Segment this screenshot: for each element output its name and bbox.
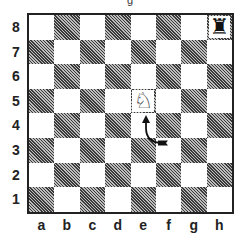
file-label-f: f [156,217,181,233]
square-e4 [131,113,156,138]
square-d2 [105,163,130,188]
square-h5 [207,89,232,114]
square-b4 [54,113,79,138]
square-a5 [29,89,54,114]
square-g5 [181,89,206,114]
square-a7 [29,40,54,65]
square-f8 [156,15,181,40]
square-g1 [181,187,206,212]
square-a4 [29,113,54,138]
file-label-g: g [181,217,206,233]
square-g2 [181,163,206,188]
square-f5 [156,89,181,114]
square-b7 [54,40,79,65]
square-h4 [207,113,232,138]
square-h7 [207,40,232,65]
square-e2 [131,163,156,188]
square-d8 [105,15,130,40]
square-b3 [54,138,79,163]
square-f3 [156,138,181,163]
file-label-d: d [105,217,130,233]
black-rook-icon: ♜ [207,15,232,40]
cut-off-caption-fragment: g [127,0,133,6]
square-c6 [80,64,105,89]
square-a1 [29,187,54,212]
square-a3 [29,138,54,163]
rank-label-8: 8 [9,19,23,35]
square-d3 [105,138,130,163]
square-d5 [105,89,130,114]
square-f7 [156,40,181,65]
square-c3 [80,138,105,163]
file-label-b: b [54,217,79,233]
file-label-h: h [207,217,232,233]
chessboard: ♜♘ [27,13,234,214]
square-c8 [80,15,105,40]
square-a8 [29,15,54,40]
square-c4 [80,113,105,138]
square-e3 [131,138,156,163]
square-e8 [131,15,156,40]
square-b8 [54,15,79,40]
square-g4 [181,113,206,138]
square-c2 [80,163,105,188]
file-label-a: a [29,217,54,233]
square-d7 [105,40,130,65]
rank-label-5: 5 [9,93,23,109]
square-h3 [207,138,232,163]
square-b2 [54,163,79,188]
rank-label-4: 4 [9,117,23,133]
square-b1 [54,187,79,212]
square-g3 [181,138,206,163]
square-h6 [207,64,232,89]
square-b6 [54,64,79,89]
rank-label-7: 7 [9,44,23,60]
square-g7 [181,40,206,65]
square-g6 [181,64,206,89]
square-d4 [105,113,130,138]
square-c5 [80,89,105,114]
square-f2 [156,163,181,188]
rank-label-3: 3 [9,142,23,158]
square-c7 [80,40,105,65]
square-a6 [29,64,54,89]
square-e7 [131,40,156,65]
square-b5 [54,89,79,114]
square-f1 [156,187,181,212]
white-knight-icon: ♘ [131,89,156,114]
square-e6 [131,64,156,89]
square-f6 [156,64,181,89]
rank-label-1: 1 [9,191,23,207]
rank-label-2: 2 [9,167,23,183]
square-c1 [80,187,105,212]
square-e1 [131,187,156,212]
square-d1 [105,187,130,212]
file-label-e: e [131,217,156,233]
square-h1 [207,187,232,212]
square-d6 [105,64,130,89]
square-f4 [156,113,181,138]
square-h2 [207,163,232,188]
rank-label-6: 6 [9,68,23,84]
square-a2 [29,163,54,188]
square-g8 [181,15,206,40]
file-label-c: c [80,217,105,233]
